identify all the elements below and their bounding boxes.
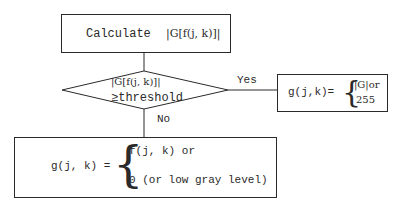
yes-result-box: g(j,k)= { |G|or 255: [277, 74, 388, 112]
no-result-box: g(j, k) = { f(j, k) or 0 (or low gray le…: [14, 137, 277, 198]
no-label: No: [157, 113, 170, 125]
decision-threshold: ≥threshold: [111, 91, 183, 105]
yes-option-2: 255: [356, 94, 375, 105]
decision-expr: |G[f(j, k)]|: [111, 76, 161, 87]
yes-label: Yes: [237, 74, 257, 86]
no-option-2: 0 (or low gray level): [129, 174, 268, 186]
calculate-label: Calculate: [86, 27, 151, 41]
calculate-box: Calculate |G[f(j, k)]|: [61, 14, 231, 53]
no-result-lhs: g(j, k) =: [51, 160, 110, 172]
yes-option-1: |G|or: [354, 79, 380, 90]
no-option-1: f(j, k) or: [129, 145, 195, 157]
yes-result-lhs: g(j,k)=: [288, 86, 334, 98]
gradient-magnitude-expr: |G[f(j, k)]|: [166, 27, 221, 40]
